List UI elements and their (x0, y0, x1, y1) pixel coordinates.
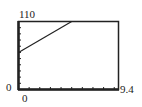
plot-area (0, 0, 142, 107)
viewing-window-frame (19, 22, 119, 90)
axis-ticks (19, 28, 115, 90)
function-line (19, 22, 72, 53)
